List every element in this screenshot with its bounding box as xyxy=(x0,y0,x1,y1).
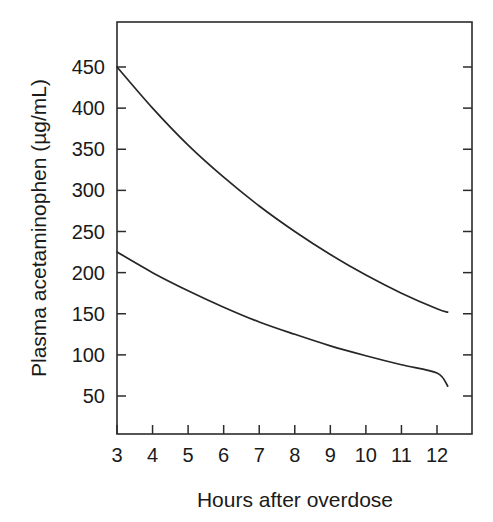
acetaminophen-decay-chart: 50100150200250300350400450 3456789101112… xyxy=(0,0,493,522)
x-axis-title: Hours after overdose xyxy=(197,488,393,511)
x-tick-label: 4 xyxy=(147,444,158,466)
x-tick-label: 9 xyxy=(325,444,336,466)
y-tick-label: 300 xyxy=(72,179,105,201)
y-tick-label: 250 xyxy=(72,221,105,243)
x-tick-label: 5 xyxy=(183,444,194,466)
y-axis-tick-labels: 50100150200250300350400450 xyxy=(72,56,105,407)
y-tick-label: 50 xyxy=(83,385,105,407)
x-tick-label: 6 xyxy=(218,444,229,466)
x-tick-label: 7 xyxy=(254,444,265,466)
x-tick-label: 3 xyxy=(111,444,122,466)
y-axis-title: Plasma acetaminophen (µg/mL) xyxy=(27,79,50,377)
y-tick-label: 100 xyxy=(72,344,105,366)
chart-figure: 50100150200250300350400450 3456789101112… xyxy=(0,0,493,522)
x-tick-label: 12 xyxy=(426,444,448,466)
y-tick-label: 450 xyxy=(72,56,105,78)
x-tick-label: 10 xyxy=(355,444,377,466)
y-tick-label: 350 xyxy=(72,138,105,160)
y-tick-label: 400 xyxy=(72,97,105,119)
x-tick-label: 8 xyxy=(289,444,300,466)
y-tick-label: 150 xyxy=(72,303,105,325)
x-tick-label: 11 xyxy=(391,444,412,466)
y-tick-label: 200 xyxy=(72,262,105,284)
